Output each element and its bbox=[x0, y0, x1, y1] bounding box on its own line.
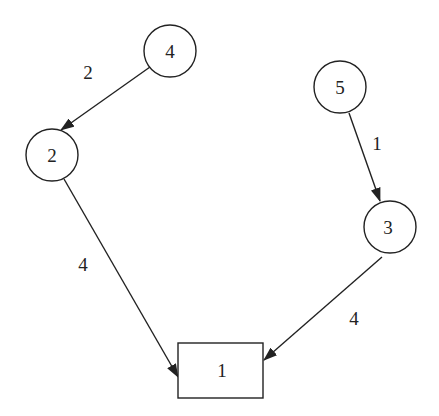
edge-weight-label: 4 bbox=[78, 254, 88, 275]
node-3: 3 bbox=[364, 201, 416, 253]
node-label: 1 bbox=[217, 360, 227, 381]
edge-2-to-1: 4 bbox=[64, 179, 178, 377]
node-4: 4 bbox=[144, 25, 196, 77]
node-5: 5 bbox=[314, 61, 366, 113]
edge-4-to-2: 2 bbox=[61, 62, 150, 130]
node-label: 2 bbox=[47, 145, 57, 166]
node-2: 2 bbox=[26, 129, 78, 181]
edge-weight-label: 1 bbox=[372, 133, 382, 154]
edge-5-to-3: 1 bbox=[349, 113, 382, 201]
edge-weight-label: 2 bbox=[83, 62, 93, 83]
node-label: 4 bbox=[165, 41, 175, 62]
node-label: 3 bbox=[383, 217, 393, 238]
graph-diagram: 2 1 4 4 4 2 5 3 1 bbox=[0, 0, 439, 416]
edge-3-to-1: 4 bbox=[264, 257, 382, 360]
node-1-root: 1 bbox=[178, 343, 263, 398]
node-label: 5 bbox=[335, 77, 345, 98]
edge-weight-label: 4 bbox=[349, 308, 359, 329]
